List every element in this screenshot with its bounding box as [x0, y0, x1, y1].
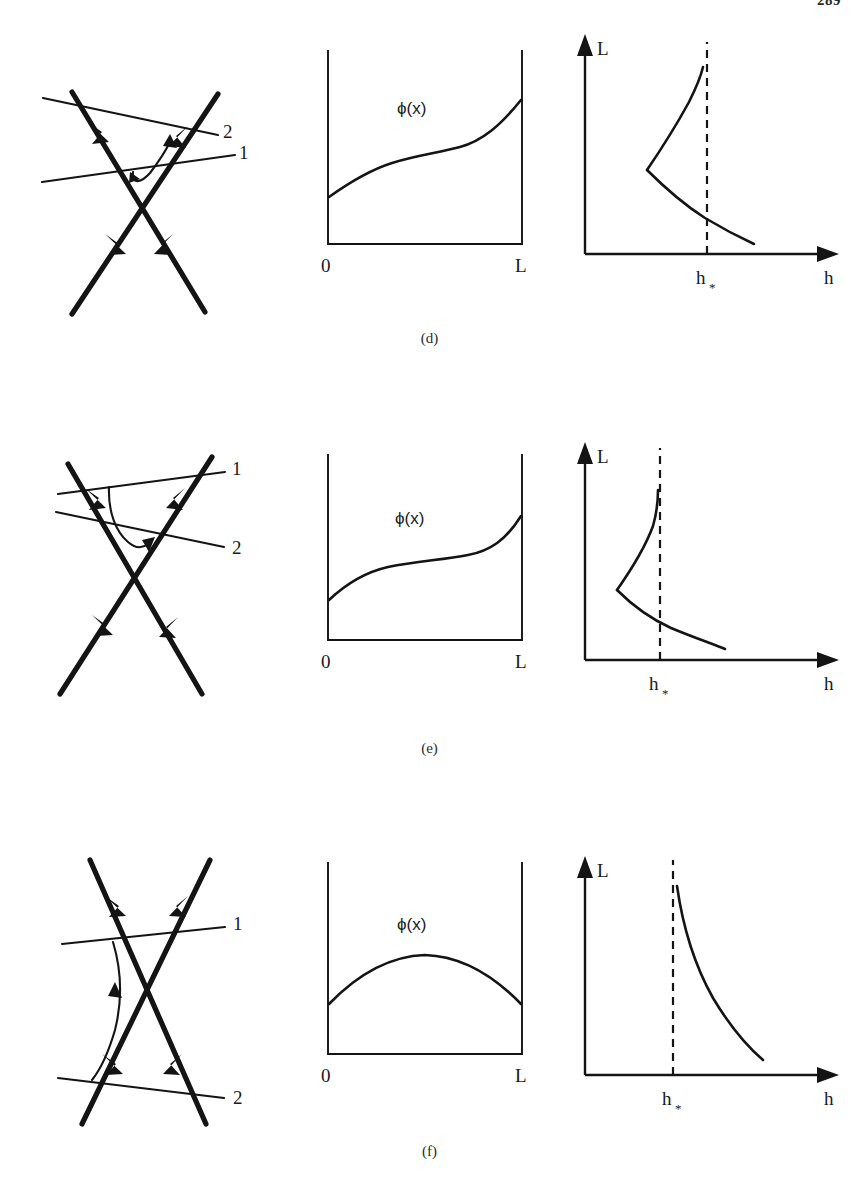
page-number: 289 — [817, 0, 841, 9]
row-e-L-vs-h-plot: L h h * — [555, 432, 855, 732]
h-axis-label: h — [824, 673, 834, 694]
row-caption-f: (f) — [0, 1143, 859, 1160]
x-axis-label-L: L — [515, 651, 527, 672]
critical-h-star: * — [662, 686, 669, 701]
line-label-2: 2 — [223, 121, 233, 142]
x-axis-label-zero: 0 — [321, 255, 331, 276]
line-label-2: 2 — [232, 537, 242, 558]
row-f-phi-profile-plot: ϕ(x) 0 L — [300, 832, 560, 1132]
L-axis-arrowhead — [577, 442, 593, 464]
phi-curve-label: ϕ(x) — [395, 509, 424, 528]
line-label-1: 1 — [232, 458, 242, 479]
h-axis-label: h — [824, 1088, 834, 1109]
row-e-phi-profile-plot: ϕ(x) 0 L — [300, 432, 560, 732]
critical-h-label: h — [649, 673, 659, 694]
L-axis-label: L — [597, 860, 609, 881]
thin-line-2 — [56, 512, 224, 547]
phi-curve — [329, 516, 521, 600]
row-d-L-vs-h-plot: L h h * — [555, 22, 855, 322]
interior-connector-curve — [109, 487, 148, 547]
single-branch-curve — [677, 886, 763, 1060]
upper-branch-curve — [647, 67, 703, 170]
profile-box-frame — [328, 50, 522, 244]
line-label-1: 1 — [233, 913, 243, 934]
h-axis-arrowhead — [817, 652, 839, 668]
row-f-characteristics-diagram: 1 2 — [10, 832, 310, 1132]
h-axis-arrowhead — [817, 1067, 839, 1083]
lower-branch-curve — [617, 590, 725, 649]
figure-row-d: 2 1 ϕ(x) 0 L L h — [0, 22, 859, 352]
lower-branch-curve — [647, 170, 754, 244]
line-label-1: 1 — [239, 142, 249, 163]
upper-branch-curve — [617, 490, 658, 590]
phi-curve-label: ϕ(x) — [397, 915, 426, 934]
L-axis-label: L — [597, 446, 609, 467]
x-axis-label-L: L — [515, 255, 527, 276]
thin-line-1 — [42, 155, 235, 182]
thin-line-2 — [58, 1078, 224, 1098]
row-caption-e: (e) — [0, 740, 859, 757]
figure-row-e: 1 2 ϕ(x) 0 L L h — [0, 432, 859, 762]
phi-curve-label: ϕ(x) — [397, 99, 426, 118]
profile-box-frame — [328, 862, 522, 1054]
thin-line-1 — [62, 927, 225, 944]
h-axis-label: h — [824, 267, 834, 288]
critical-h-label: h — [696, 267, 706, 288]
critical-h-star: * — [675, 1101, 682, 1116]
critical-h-star: * — [709, 280, 716, 295]
row-d-phi-profile-plot: ϕ(x) 0 L — [300, 22, 560, 322]
row-d-characteristics-diagram: 2 1 — [10, 22, 310, 322]
row-e-characteristics-diagram: 1 2 — [10, 432, 310, 732]
figure-row-f: 1 2 ϕ(x) 0 L L h h — [0, 832, 859, 1162]
x-axis-label-L: L — [515, 1065, 527, 1086]
h-axis-arrowhead — [817, 246, 839, 262]
L-axis-arrowhead — [577, 34, 593, 56]
x-axis-label-zero: 0 — [321, 1065, 331, 1086]
figure-page: 289 2 — [0, 0, 859, 1193]
row-f-L-vs-h-plot: L h h * — [555, 832, 855, 1132]
row-caption-d: (d) — [0, 330, 859, 347]
L-axis-label: L — [597, 38, 609, 59]
critical-h-label: h — [662, 1088, 672, 1109]
phi-curve — [329, 955, 521, 1004]
L-axis-arrowhead — [577, 856, 593, 878]
line-label-2: 2 — [233, 1087, 243, 1108]
x-axis-label-zero: 0 — [321, 651, 331, 672]
characteristic-line-down — [72, 92, 205, 312]
